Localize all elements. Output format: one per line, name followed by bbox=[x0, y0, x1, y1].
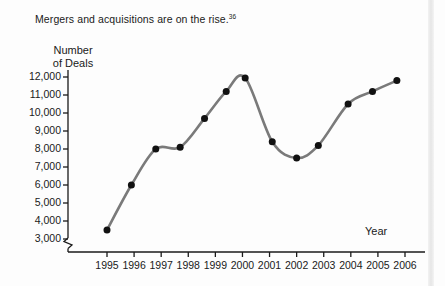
data-line bbox=[107, 75, 397, 230]
x-tick-label: 2006 bbox=[388, 260, 422, 271]
data-point-marker bbox=[201, 115, 208, 122]
data-point-marker bbox=[242, 74, 249, 81]
plot-area bbox=[0, 0, 445, 286]
chart-figure: Mergers and acquisitions are on the rise… bbox=[0, 0, 445, 286]
data-point-marker bbox=[223, 88, 230, 95]
data-point-marker bbox=[315, 142, 322, 149]
data-point-marker bbox=[393, 77, 400, 84]
y-tick-label: 10,000 bbox=[9, 107, 61, 118]
y-tick-label: 12,000 bbox=[9, 71, 61, 82]
y-tick-label: 7,000 bbox=[9, 161, 61, 172]
data-series-layer bbox=[104, 74, 401, 233]
y-tick-label: 3,000 bbox=[9, 233, 61, 244]
y-tick-label: 11,000 bbox=[9, 89, 61, 100]
y-tick-label: 4,000 bbox=[9, 215, 61, 226]
data-point-marker bbox=[293, 155, 300, 162]
axes-layer bbox=[63, 70, 425, 257]
y-tick-label: 9,000 bbox=[9, 125, 61, 136]
data-point-marker bbox=[152, 146, 159, 153]
data-point-marker bbox=[177, 144, 184, 151]
y-tick-label: 8,000 bbox=[9, 143, 61, 154]
data-point-marker bbox=[128, 182, 135, 189]
y-tick-label: 5,000 bbox=[9, 197, 61, 208]
data-point-marker bbox=[269, 138, 276, 145]
y-tick-label: 6,000 bbox=[9, 179, 61, 190]
data-point-marker bbox=[345, 101, 352, 108]
data-point-marker bbox=[104, 227, 111, 234]
data-point-marker bbox=[369, 88, 376, 95]
